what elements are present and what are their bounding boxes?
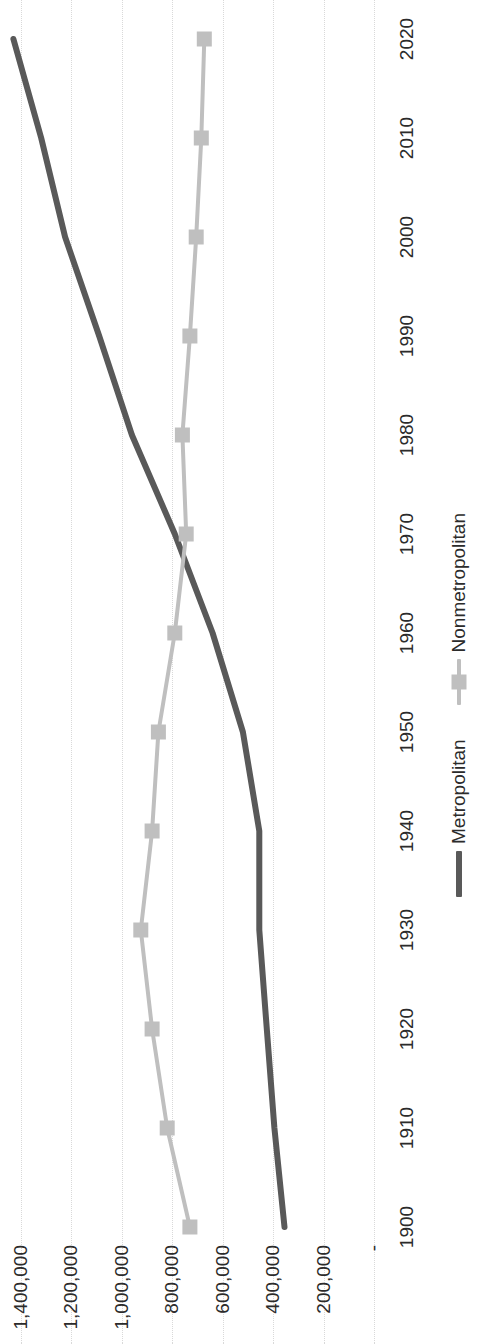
data-point-marker <box>197 32 212 47</box>
legend-item-nonmetropolitan[interactable]: Nonmetropolitan <box>448 513 470 705</box>
chart-figure: -200,000400,000600,000800,0001,000,0001,… <box>0 0 491 1344</box>
legend-swatch <box>451 851 467 897</box>
data-point-marker <box>182 1220 197 1235</box>
legend-item-metropolitan[interactable]: Metropolitan <box>448 739 470 897</box>
data-point-marker <box>133 923 148 938</box>
legend-label: Metropolitan <box>448 739 470 844</box>
series-line-metropolitan <box>13 39 284 1227</box>
legend-marker-square <box>452 675 467 690</box>
plot-area: -200,000400,000600,000800,0001,000,0001,… <box>0 0 491 1344</box>
legend-label: Nonmetropolitan <box>448 513 470 652</box>
data-point-marker <box>182 329 197 344</box>
data-point-marker <box>151 725 166 740</box>
legend-line <box>456 851 462 897</box>
rotated-canvas: -200,000400,000600,000800,0001,000,0001,… <box>0 0 491 1344</box>
data-point-marker <box>160 1121 175 1136</box>
legend-swatch <box>451 659 467 705</box>
chart-legend: MetropolitanNonmetropolitan <box>448 513 470 897</box>
series-lines <box>0 0 491 1344</box>
data-point-marker <box>179 527 194 542</box>
data-point-marker <box>175 428 190 443</box>
data-point-marker <box>145 1022 160 1037</box>
data-point-marker <box>167 626 182 641</box>
data-point-marker <box>194 131 209 146</box>
data-point-marker <box>189 230 204 245</box>
data-point-marker <box>145 824 160 839</box>
